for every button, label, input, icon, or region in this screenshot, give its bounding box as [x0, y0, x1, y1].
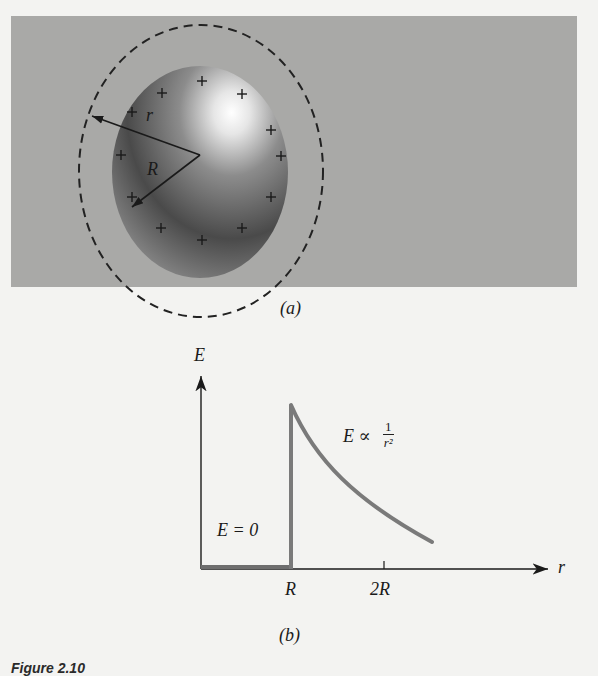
tick-label-2R: 2R — [370, 580, 390, 598]
tick-label-R: R — [285, 580, 296, 598]
figure-caption: Figure 2.10 — [11, 660, 85, 676]
panel-a-caption: (a) — [280, 299, 301, 317]
fraction-numerator: 1 — [383, 420, 394, 435]
inner-radius-label: R — [147, 160, 158, 178]
charged-sphere — [112, 66, 288, 278]
outer-radius-label: r — [146, 106, 153, 124]
y-axis-label: E — [194, 346, 205, 364]
inverse-square-fraction: 1 r² — [383, 420, 394, 449]
inside-field-annotation: E = 0 — [217, 521, 258, 539]
panel-b-caption: (b) — [279, 626, 300, 644]
fraction-denominator: r² — [383, 435, 394, 449]
x-axis-label: r — [558, 558, 565, 576]
outside-field-annotation: E ∝ — [343, 427, 371, 445]
